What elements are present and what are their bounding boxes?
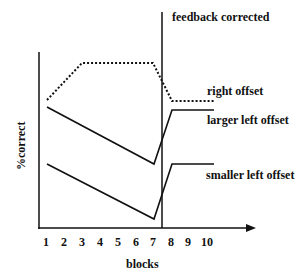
y-axis-label: %correct — [14, 122, 28, 170]
feedback-label: feedback corrected — [172, 10, 270, 24]
series-right-offset — [47, 63, 214, 101]
x-tick: 10 — [201, 235, 213, 249]
x-tick: 4 — [97, 235, 103, 249]
x-tick: 3 — [79, 235, 85, 249]
smaller-left-label: smaller left offset — [206, 168, 294, 182]
right-offset-label: right offset — [207, 84, 263, 98]
x-tick: 1 — [43, 235, 49, 249]
x-tick: 5 — [115, 235, 121, 249]
series-smaller-left-offset — [47, 164, 214, 219]
chart: feedback corrected right offset larger l… — [0, 0, 307, 275]
x-tick: 2 — [61, 235, 67, 249]
larger-left-label: larger left offset — [207, 113, 289, 127]
series-larger-left-offset — [47, 107, 214, 164]
x-tick: 6 — [133, 235, 139, 249]
x-tick: 8 — [168, 235, 174, 249]
x-tick: 7 — [150, 235, 156, 249]
x-tick: 9 — [185, 235, 191, 249]
x-axis-arrow-icon — [246, 224, 256, 232]
x-axis-label: blocks — [126, 257, 159, 271]
